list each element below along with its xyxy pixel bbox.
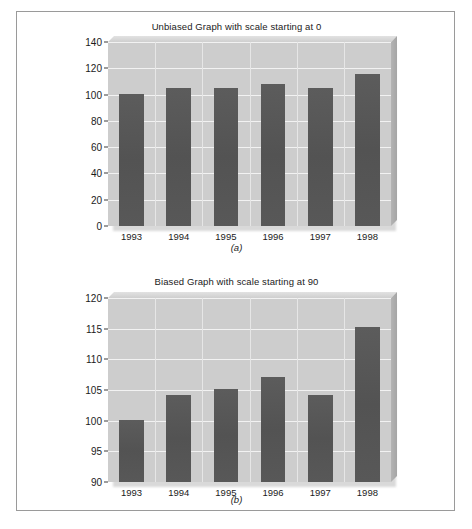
x-axis-tick-label: 1994 bbox=[168, 231, 189, 242]
y-axis-tick-mark bbox=[104, 359, 108, 360]
x-axis-tick-label: 1997 bbox=[310, 231, 331, 242]
y-axis-tick-mark bbox=[104, 328, 108, 329]
chart-panel-b: Biased Graph with scale starting at 90 9… bbox=[17, 264, 456, 512]
plot-area-b bbox=[108, 298, 391, 482]
gridline-x bbox=[297, 42, 298, 226]
y-axis-tick-label: 95 bbox=[62, 446, 102, 457]
gridline-x bbox=[202, 42, 203, 226]
y-axis-tick-label: 120 bbox=[62, 293, 102, 304]
y-axis-tick-mark bbox=[104, 120, 108, 121]
plot-area-a bbox=[108, 42, 391, 226]
y-axis-tick-mark bbox=[104, 199, 108, 200]
bar-1996 bbox=[261, 84, 286, 226]
bar-1998 bbox=[355, 327, 380, 482]
gridline-x bbox=[155, 298, 156, 482]
gridline-x bbox=[202, 298, 203, 482]
panel-label-a: (a) bbox=[17, 242, 456, 253]
gridline-x bbox=[250, 298, 251, 482]
plot-canvas-a bbox=[108, 42, 391, 226]
bar-1995 bbox=[214, 389, 239, 482]
y-axis-tick-label: 110 bbox=[62, 354, 102, 365]
chart-title-b: Biased Graph with scale starting at 90 bbox=[17, 276, 456, 287]
y-axis-tick-mark bbox=[104, 147, 108, 148]
bar-1994 bbox=[166, 395, 191, 482]
y-axis-tick-label: 115 bbox=[62, 323, 102, 334]
y-axis-tick-label: 90 bbox=[62, 477, 102, 488]
gridline-x bbox=[297, 298, 298, 482]
y-axis-tick-mark bbox=[104, 173, 108, 174]
plot-depth-right-a bbox=[391, 36, 397, 226]
plot-depth-right-b bbox=[391, 292, 397, 482]
y-axis-tick-label: 100 bbox=[62, 89, 102, 100]
gridline-x bbox=[155, 42, 156, 226]
y-axis-tick-label: 40 bbox=[62, 168, 102, 179]
x-axis-tick-label: 1993 bbox=[121, 231, 142, 242]
figure-frame: Unbiased Graph with scale starting at 0 … bbox=[16, 11, 455, 511]
y-axis-tick-label: 140 bbox=[62, 37, 102, 48]
panel-label-b: (b) bbox=[17, 494, 456, 505]
chart-panel-a: Unbiased Graph with scale starting at 0 … bbox=[17, 12, 456, 264]
bar-1993 bbox=[119, 420, 144, 482]
x-axis-tick-label: 1996 bbox=[263, 231, 284, 242]
y-axis-tick-label: 80 bbox=[62, 115, 102, 126]
y-axis-tick-mark bbox=[104, 420, 108, 421]
chart-title-a: Unbiased Graph with scale starting at 0 bbox=[17, 21, 456, 32]
plot-canvas-b bbox=[108, 298, 391, 482]
y-axis-tick-mark bbox=[104, 390, 108, 391]
y-axis-tick-label: 20 bbox=[62, 194, 102, 205]
y-axis-tick-label: 60 bbox=[62, 142, 102, 153]
y-axis-tick-mark bbox=[104, 482, 108, 483]
y-axis-tick-mark bbox=[104, 94, 108, 95]
bar-1997 bbox=[308, 88, 333, 226]
bar-1998 bbox=[355, 74, 380, 226]
bar-1995 bbox=[214, 88, 239, 226]
x-axis-tick-label: 1995 bbox=[215, 231, 236, 242]
y-axis-tick-mark bbox=[104, 68, 108, 69]
y-axis-tick-mark bbox=[104, 298, 108, 299]
figure: Unbiased Graph with scale starting at 0 … bbox=[17, 12, 454, 510]
y-axis-tick-label: 105 bbox=[62, 385, 102, 396]
y-axis-tick-label: 120 bbox=[62, 63, 102, 74]
y-axis-tick-label: 100 bbox=[62, 415, 102, 426]
y-axis-tick-mark bbox=[104, 42, 108, 43]
x-axis-tick-label: 1998 bbox=[357, 231, 378, 242]
gridline-x bbox=[344, 42, 345, 226]
gridline-x bbox=[344, 298, 345, 482]
bar-1994 bbox=[166, 88, 191, 226]
y-axis-tick-mark bbox=[104, 226, 108, 227]
bar-1993 bbox=[119, 94, 144, 226]
gridline-x bbox=[250, 42, 251, 226]
y-axis-tick-label: 0 bbox=[62, 221, 102, 232]
bar-1997 bbox=[308, 395, 333, 482]
y-axis-tick-mark bbox=[104, 451, 108, 452]
bar-1996 bbox=[261, 377, 286, 482]
